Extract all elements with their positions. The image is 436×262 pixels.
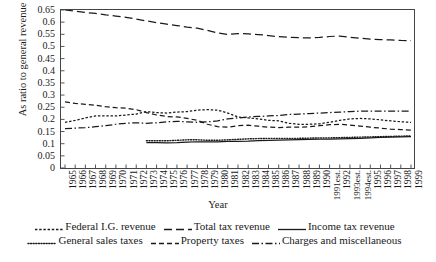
y-axis-tick: 0.35 [38, 78, 56, 88]
x-axis-tick: 1999 [415, 170, 425, 189]
y-axis-tick: 0.3 [43, 90, 56, 100]
x-axis-title: Year [0, 199, 436, 210]
x-axis-tick: 1983 [252, 170, 262, 189]
legend-label: General sales taxes [58, 233, 149, 247]
legend-item: General sales taxes [27, 233, 149, 247]
y-axis-tick: 0.05 [38, 151, 56, 161]
x-axis-tick: 1990 [323, 170, 333, 189]
x-axis-tick: 1993est. [353, 170, 363, 200]
x-axis-tick: 1967 [89, 170, 99, 189]
x-axis-tick: 1998 [404, 170, 414, 189]
x-axis-tick: 1976 [180, 170, 190, 189]
series-line [65, 110, 411, 125]
y-axis-tick: 0.1 [43, 139, 56, 149]
y-axis-tick: 0.45 [38, 54, 56, 64]
x-axis-tick: 1973 [150, 170, 160, 189]
y-axis-tick: 0 [50, 163, 55, 173]
legend-line-sample [34, 222, 64, 230]
y-axis-tick: 0.4 [43, 66, 56, 76]
legend-row-1: Federal I.G. revenueTotal tax revenueInc… [0, 219, 436, 233]
legend-line-sample [163, 222, 193, 230]
x-axis-tick: 1978 [201, 170, 211, 189]
x-axis-tick: 1971 [130, 170, 140, 189]
legend-row-2: General sales taxesProperty taxesCharges… [0, 233, 436, 247]
x-axis-tick: 1972 [140, 170, 150, 189]
x-axis-tick: 1988 [303, 170, 313, 189]
chart-legend: Federal I.G. revenueTotal tax revenueInc… [0, 219, 436, 247]
x-axis-tick: 1982 [242, 170, 252, 189]
legend-line-sample [150, 236, 180, 244]
x-axis-tick: 1965 [69, 170, 79, 189]
legend-item: Income tax revenue [277, 219, 402, 233]
legend-label: Income tax revenue [308, 219, 402, 233]
legend-label: Federal I.G. revenue [65, 219, 162, 233]
legend-line-sample [27, 236, 57, 244]
y-axis-tick: 0.6 [43, 17, 56, 27]
legend-item: Property taxes [150, 233, 251, 247]
x-axis-tick: 1987 [292, 170, 302, 189]
legend-label: Property taxes [181, 233, 251, 247]
x-axis-tick: 1966 [79, 170, 89, 189]
chart-container: As ratio to general revenue 0.650.60.550… [0, 0, 436, 262]
legend-item: Federal I.G. revenue [34, 219, 162, 233]
y-axis-tick: 0.55 [38, 29, 56, 39]
legend-line-sample [277, 222, 307, 230]
legend-line-sample [251, 236, 281, 244]
legend-item: Charges and miscellaneous [251, 233, 409, 247]
plot-area [60, 9, 415, 169]
x-axis-tick: 1977 [191, 170, 201, 189]
x-axis-tick: 1994est. [364, 170, 374, 200]
x-axis-tick: 1984 [262, 170, 272, 189]
x-axis-tick: 1989 [313, 170, 323, 189]
legend-item: Total tax revenue [163, 219, 277, 233]
series-line [65, 10, 411, 41]
x-axis-tick: 1970 [119, 170, 129, 189]
series-lines [61, 10, 414, 168]
y-axis-tick: 0.15 [38, 127, 56, 137]
legend-label: Total tax revenue [194, 219, 277, 233]
y-axis-tick: 0.65 [38, 5, 56, 15]
legend-label: Charges and miscellaneous [282, 233, 409, 247]
x-axis-tick: 1995 [374, 170, 384, 189]
y-axis-tick: 0.2 [43, 114, 56, 124]
x-axis-tick: 1981 [231, 170, 241, 189]
y-axis-tick: 0.5 [43, 41, 56, 51]
y-axis-tick: 0.25 [38, 102, 56, 112]
